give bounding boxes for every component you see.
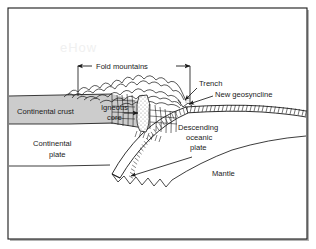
descending-plate-label-line2: oceanic (186, 133, 212, 142)
mantle-label: Mantle (212, 169, 235, 178)
continental-plate-label-line1: Continental (33, 139, 72, 148)
continental-crust-label: Continental crust (17, 107, 75, 116)
igneous-core-body (137, 95, 150, 132)
continental-plate-label-line2: plate (49, 150, 65, 159)
watermark: eHow (60, 40, 97, 55)
igneous-core-label-line2: core (107, 113, 122, 122)
descending-plate-label-line1: Descending (178, 123, 218, 132)
diagram-canvas: eHow (0, 0, 316, 249)
new-geosyncline-label: New geosyncline (215, 90, 272, 99)
igneous-core-label-line1: Igneous (101, 103, 128, 112)
trench-label: Trench (199, 79, 222, 88)
fold-mountains-label: Fold mountains (96, 62, 148, 71)
descending-plate-label-line3: plate (190, 143, 206, 152)
geology-diagram-figure: eHow (0, 0, 316, 249)
